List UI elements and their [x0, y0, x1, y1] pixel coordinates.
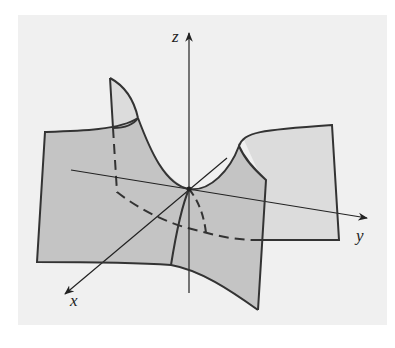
surface-front-right: [171, 146, 266, 310]
x-axis-label: x: [70, 292, 78, 309]
origin-point: [187, 187, 192, 192]
z-axis-label: z: [172, 28, 179, 45]
saddle-surface-diagram: [0, 0, 395, 348]
y-axis-label: y: [356, 227, 364, 244]
surface-left-panel: [37, 118, 189, 265]
